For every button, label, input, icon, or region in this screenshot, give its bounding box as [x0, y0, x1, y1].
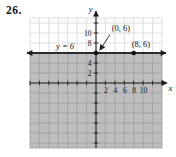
x-tick-label: 8: [132, 86, 136, 95]
x-tick-label: 6: [123, 86, 127, 95]
line-equation-label: y = 6: [55, 41, 75, 51]
callout-arrow: [100, 35, 110, 51]
y-tick-label: 8: [88, 39, 92, 48]
x-axis-label: x: [168, 83, 173, 93]
x-tick-label: 4: [114, 86, 118, 95]
y-axis-label: y: [88, 4, 93, 14]
point-label: (0, 6): [112, 23, 131, 33]
point: [131, 51, 136, 56]
y-tick-label: 10: [84, 29, 92, 38]
point: [94, 51, 99, 56]
figure-canvas: 26. 24681024810xyy = 6(0, 6)(8, 6): [0, 0, 176, 157]
x-tick-label: 2: [104, 86, 108, 95]
y-tick-label: 4: [88, 59, 92, 68]
y-tick-label: 2: [88, 69, 92, 78]
point-label: (8, 6): [132, 39, 151, 49]
x-tick-label: 10: [140, 86, 148, 95]
coordinate-plane-svg: 24681024810xyy = 6(0, 6)(8, 6): [0, 0, 176, 157]
